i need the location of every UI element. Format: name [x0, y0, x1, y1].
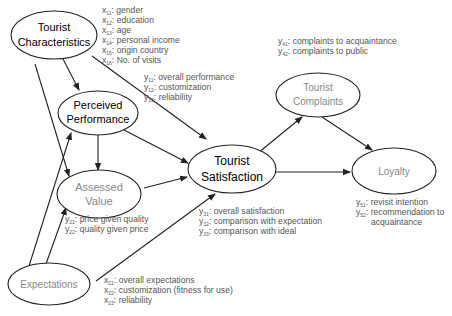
node-label-tourist-complaints-l2: Complaints: [293, 96, 343, 107]
node-label-perceived-performance-l2: Performance: [67, 113, 130, 125]
indicator: acquaintance: [371, 217, 422, 227]
indicator: x16: No. of visits: [102, 55, 161, 66]
edge-ts-complaints: [258, 117, 302, 153]
indicator: y33: comparison with ideal: [199, 226, 296, 237]
indicators-expectations: x21: overall expectations x22: customiza…: [104, 275, 233, 306]
node-label-tourist-satisfaction-l2: Satisfaction: [201, 170, 263, 184]
node-tourist-satisfaction: [188, 145, 276, 193]
node-tourist-characteristics: [11, 11, 97, 59]
indicators-tourist-satisfaction: y31: overall satisfaction y32: compariso…: [199, 206, 322, 237]
indicator: y13: reliability: [144, 92, 193, 103]
node-tourist-complaints: [276, 73, 360, 117]
indicators-perceived-performance: y11: overall performance y12: customizat…: [144, 72, 234, 103]
indicators-tourist-complaints: y41: complaints to acquaintance y42: com…: [278, 36, 397, 57]
node-label-tourist-satisfaction-l1: Tourist: [214, 154, 250, 168]
node-label-tourist-complaints-l1: Tourist: [303, 82, 333, 93]
node-label-perceived-performance-l1: Perceived: [74, 99, 123, 111]
structural-model-diagram: Tourist Characteristics Perceived Perfor…: [0, 0, 452, 316]
node-label-loyalty: Loyalty: [378, 166, 410, 177]
node-label-assessed-value-l1: Assessed: [75, 181, 123, 193]
indicator: y22: quality given price: [65, 224, 149, 235]
edge-pp-ts: [124, 130, 188, 163]
indicator: x23: reliability: [104, 295, 153, 306]
edge-tc-pp: [63, 59, 79, 90]
indicators-loyalty: y51: revisit intention y52: recommendati…: [356, 197, 444, 227]
node-label-tourist-characteristics-l2: Characteristics: [18, 36, 91, 48]
indicators-assessed-value: y21: price given quality y22: quality gi…: [65, 214, 149, 235]
edge-complaints-loyalty: [322, 117, 372, 150]
indicator: y42: complaints to public: [278, 46, 369, 57]
node-label-assessed-value-l2: Value: [85, 195, 112, 207]
edge-exp-av: [46, 208, 66, 264]
node-assessed-value: [57, 170, 141, 218]
node-label-tourist-characteristics-l1: Tourist: [38, 21, 70, 33]
edge-av-ts: [144, 177, 187, 188]
node-label-expectations: Expectations: [20, 279, 77, 290]
indicators-tourist-characteristics: x11: gender x12: education x13: age x14:…: [102, 5, 180, 66]
